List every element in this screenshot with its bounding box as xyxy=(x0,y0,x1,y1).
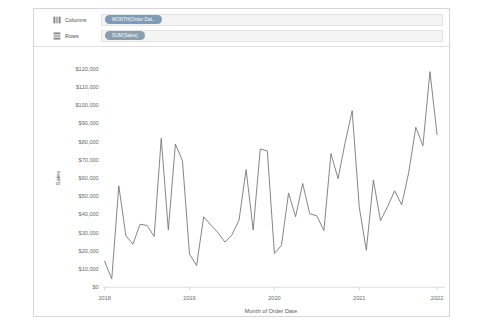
rows-shelf-label: Rows xyxy=(65,33,101,39)
y-axis-ticks: $120,000$110,000$100,000$90,000$80,000$7… xyxy=(76,66,99,290)
rows-shelf-well[interactable]: SUM(Sales) xyxy=(101,30,443,42)
x-tick-label: 2020 xyxy=(268,295,280,301)
x-axis-ticks: 20182019202020212022 xyxy=(98,287,443,301)
shelf-area: Columns MONTH(Order Dat.. Rows SUM(Sales… xyxy=(34,9,449,48)
x-tick-label: 2021 xyxy=(353,295,365,301)
y-tick-label: $80,000 xyxy=(79,139,99,145)
y-tick-label: $10,000 xyxy=(79,266,99,272)
columns-shelf-label: Columns xyxy=(65,17,101,23)
tableau-viz-card: Columns MONTH(Order Dat.. Rows SUM(Sales… xyxy=(33,8,450,317)
y-tick-label: $50,000 xyxy=(79,193,99,199)
y-tick-label: $0 xyxy=(93,284,99,290)
y-tick-label: $20,000 xyxy=(79,248,99,254)
y-axis-title: Sales xyxy=(55,171,61,185)
x-tick-label: 2022 xyxy=(431,295,443,301)
y-tick-label: $40,000 xyxy=(79,211,99,217)
pill-sum-sales[interactable]: SUM(Sales) xyxy=(105,31,145,40)
x-tick-label: 2019 xyxy=(183,295,195,301)
columns-shelf-row[interactable]: Columns MONTH(Order Dat.. xyxy=(40,13,443,26)
y-tick-label: $70,000 xyxy=(79,157,99,163)
rows-shelf-row[interactable]: Rows SUM(Sales) xyxy=(40,29,443,42)
y-tick-label: $100,000 xyxy=(76,102,99,108)
x-tick-label: 2018 xyxy=(98,295,110,301)
chart-plot-area[interactable]: $120,000$110,000$100,000$90,000$80,000$7… xyxy=(34,47,449,316)
sales-line-series[interactable] xyxy=(105,72,437,279)
columns-shelf-well[interactable]: MONTH(Order Dat.. xyxy=(101,14,443,26)
y-tick-label: $90,000 xyxy=(79,120,99,126)
columns-grid-icon xyxy=(53,16,61,24)
y-tick-label: $120,000 xyxy=(76,66,99,72)
rows-grid-icon xyxy=(53,32,61,40)
y-tick-label: $110,000 xyxy=(76,84,99,90)
line-chart-svg: $120,000$110,000$100,000$90,000$80,000$7… xyxy=(34,47,449,316)
y-tick-label: $30,000 xyxy=(79,230,99,236)
y-tick-label: $60,000 xyxy=(79,175,99,181)
pill-month-order-date[interactable]: MONTH(Order Dat.. xyxy=(105,15,162,24)
x-axis-title: Month of Order Date xyxy=(245,308,297,314)
